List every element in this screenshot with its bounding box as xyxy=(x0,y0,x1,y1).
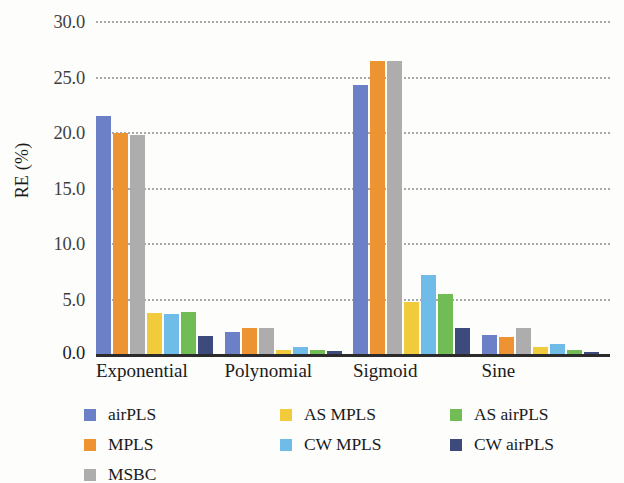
legend-swatch-icon xyxy=(280,439,292,451)
legend-label: MPLS xyxy=(108,434,153,455)
legend-column-3: AS airPLSCW airPLS xyxy=(450,404,604,483)
bar xyxy=(584,352,599,354)
bar xyxy=(147,313,162,354)
bar xyxy=(96,116,111,354)
legend: airPLSMPLSMSBC AS MPLSCW MPLS AS airPLSC… xyxy=(84,404,604,483)
bar-group xyxy=(482,21,611,354)
legend-label: AS airPLS xyxy=(474,404,548,425)
legend-item: airPLS xyxy=(84,404,280,425)
bar xyxy=(225,332,240,354)
y-axis-tick-label: 30.0 xyxy=(53,12,85,33)
plot-area: 0.05.010.015.020.025.030.0 xyxy=(96,21,610,354)
bar xyxy=(242,328,257,354)
bar xyxy=(293,347,308,354)
legend-label: AS MPLS xyxy=(304,404,376,425)
legend-item: MPLS xyxy=(84,434,280,455)
legend-swatch-icon xyxy=(84,439,96,451)
bar xyxy=(499,337,514,354)
y-axis-tick-label: 10.0 xyxy=(53,234,85,255)
y-axis-title: RE (%) xyxy=(12,91,33,251)
bar xyxy=(353,85,368,354)
y-axis-tick-label: 20.0 xyxy=(53,123,85,144)
legend-label: MSBC xyxy=(108,464,156,483)
legend-swatch-icon xyxy=(450,409,462,421)
bar xyxy=(130,135,145,354)
legend-item: AS airPLS xyxy=(450,404,604,425)
x-axis-tick-label: Polynomial xyxy=(225,360,354,382)
x-axis-tick-label: Sigmoid xyxy=(353,360,482,382)
x-axis-line: 0.0 xyxy=(96,354,610,357)
bar xyxy=(567,350,582,354)
legend-item: AS MPLS xyxy=(280,404,450,425)
bar xyxy=(113,133,128,354)
bar xyxy=(181,312,196,354)
x-axis-tick-label: Sine xyxy=(482,360,611,382)
legend-column-2: AS MPLSCW MPLS xyxy=(280,404,450,483)
legend-item: MSBC xyxy=(84,464,280,483)
bar-group xyxy=(225,21,354,354)
legend-swatch-icon xyxy=(450,439,462,451)
legend-label: airPLS xyxy=(108,404,156,425)
bar xyxy=(438,294,453,354)
bar xyxy=(370,61,385,354)
bar xyxy=(533,347,548,354)
legend-label: CW airPLS xyxy=(474,434,554,455)
bar xyxy=(310,350,325,354)
bar xyxy=(455,328,470,354)
y-axis-tick-label: 25.0 xyxy=(53,68,85,89)
bar xyxy=(482,335,497,354)
bar xyxy=(198,336,213,354)
x-axis-tick-label: Exponential xyxy=(96,360,225,382)
x-axis-category-labels: ExponentialPolynomialSigmoidSine xyxy=(96,360,610,382)
legend-label: CW MPLS xyxy=(304,434,381,455)
bar xyxy=(404,302,419,354)
bar-group xyxy=(353,21,482,354)
bar xyxy=(387,61,402,354)
y-axis-tick-label: 5.0 xyxy=(62,290,85,311)
legend-swatch-icon xyxy=(84,469,96,481)
bar xyxy=(259,328,274,354)
bar xyxy=(550,344,565,354)
bar-group xyxy=(96,21,225,354)
legend-swatch-icon xyxy=(280,409,292,421)
y-axis-tick-label: 15.0 xyxy=(53,179,85,200)
bar-groups xyxy=(96,21,610,354)
bar xyxy=(421,275,436,354)
y-axis-tick-label: 0.0 xyxy=(62,343,85,364)
bar xyxy=(276,350,291,354)
legend-item: CW airPLS xyxy=(450,434,604,455)
legend-item: CW MPLS xyxy=(280,434,450,455)
legend-column-1: airPLSMPLSMSBC xyxy=(84,404,280,483)
bar xyxy=(516,328,531,354)
bar-chart: RE (%) 0.05.010.015.020.025.030.0 Expone… xyxy=(0,0,624,483)
bar xyxy=(164,314,179,354)
legend-swatch-icon xyxy=(84,409,96,421)
bar xyxy=(327,351,342,354)
